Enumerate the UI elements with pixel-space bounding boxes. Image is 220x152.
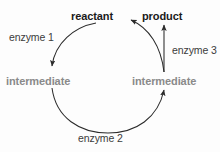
diagram-canvas: reactant product intermediate intermedia… xyxy=(0,0,220,152)
arrow-enzyme2 xyxy=(52,88,164,133)
edge-label-enzyme1: enzyme 1 xyxy=(9,32,54,43)
edge-label-enzyme3: enzyme 3 xyxy=(172,45,217,56)
node-label-intermediate-left: intermediate xyxy=(6,76,70,87)
node-label-intermediate-right: intermediate xyxy=(132,76,196,87)
node-label-reactant: reactant xyxy=(71,11,113,22)
node-label-product: product xyxy=(142,11,182,22)
edge-label-enzyme2: enzyme 2 xyxy=(78,133,123,144)
arrow-enzyme1 xyxy=(52,23,96,66)
arrow-cycle-return xyxy=(131,20,164,72)
